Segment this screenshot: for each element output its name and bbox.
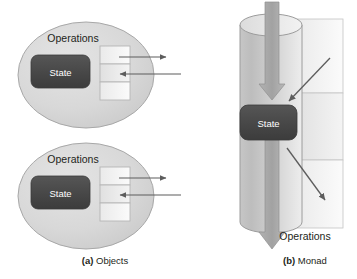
state-label: State [257, 118, 279, 129]
panel-objects: Operations State Operations State [18, 22, 181, 266]
caption-monad: (b) Monad [283, 255, 327, 266]
operation-cell[interactable] [100, 82, 130, 100]
caption-text: Objects [93, 255, 128, 266]
operation-cell[interactable] [100, 64, 130, 82]
caption-objects: (a) Objects [82, 255, 129, 266]
operation-cell[interactable] [100, 167, 130, 185]
panel-monad: State Operations (b) Monad [240, 2, 343, 266]
operations-label: Operations [47, 32, 98, 44]
operations-label: Operations [279, 230, 330, 242]
operations-cell-stack [100, 167, 130, 221]
object-bottom[interactable]: Operations State [18, 143, 181, 249]
caption-text: Monad [295, 255, 327, 266]
operations-label: Operations [47, 153, 98, 165]
caption-marker: (a) [82, 255, 94, 266]
diagram-objects-vs-monad: Operations State Operations State [0, 0, 357, 279]
operation-cell[interactable] [100, 185, 130, 203]
figure-container: Operations State Operations State [0, 0, 357, 279]
caption-marker: (b) [283, 255, 295, 266]
state-label: State [49, 67, 71, 78]
operations-cell-stack [100, 46, 130, 100]
object-top[interactable]: Operations State [18, 22, 181, 128]
state-label: State [49, 188, 71, 199]
operation-cell[interactable] [100, 203, 130, 221]
operation-cell[interactable] [100, 46, 130, 64]
